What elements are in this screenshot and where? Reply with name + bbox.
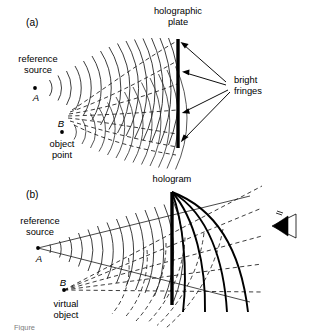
- bright-fringes-label-line2: fringes: [234, 86, 262, 96]
- point-a-label-b: A: [35, 253, 42, 264]
- point-b-label-b: B: [60, 277, 67, 288]
- panel-a-label: (a): [26, 17, 38, 28]
- bright-fringes-label-line1: bright: [234, 75, 258, 85]
- point-b-label: B: [58, 118, 65, 129]
- hologram-label: hologram: [153, 174, 192, 184]
- reference-source-label-line1-a: reference: [18, 54, 57, 64]
- virtual-object-label-line2: object: [54, 310, 79, 320]
- point-a-label: A: [32, 92, 39, 103]
- wavefronts-from-source-a: [50, 38, 180, 145]
- diffracted-wavefronts: [172, 192, 248, 312]
- virtual-wavefronts: [112, 229, 223, 328]
- reference-source-label-line2-b: source: [26, 227, 54, 237]
- bright-fringes-arrows: [181, 42, 231, 142]
- object-point-label-line1: object: [50, 139, 75, 149]
- reference-source-label-line1-b: reference: [20, 216, 59, 226]
- object-point-b: [60, 130, 64, 134]
- reference-source-point-a-b: [36, 246, 40, 250]
- virtual-object-point-b: [62, 288, 66, 292]
- figure-caption: Figure: [14, 323, 35, 331]
- holographic-plate-label-line2: plate: [168, 17, 188, 27]
- holographic-plate-label-line1: holographic: [154, 6, 202, 16]
- reference-source-point-a: [33, 86, 37, 90]
- reference-source-label-line2-a: source: [24, 65, 52, 75]
- interference-fringe-loci: [68, 41, 177, 155]
- panel-b-label: (b): [26, 189, 38, 200]
- holography-figure: (a) holographic plate reference source A…: [0, 0, 311, 331]
- eye-icon: [272, 211, 296, 238]
- virtual-object-label-line1: virtual: [54, 299, 79, 309]
- object-point-label-line2: point: [52, 150, 73, 160]
- figure-canvas: (a) holographic plate reference source A…: [0, 0, 311, 331]
- panel-a-text: (a) holographic plate reference source A…: [18, 6, 262, 160]
